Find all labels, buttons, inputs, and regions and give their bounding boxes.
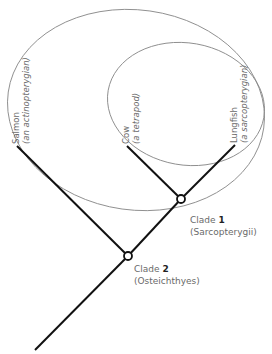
svg-text:(Osteichthyes): (Osteichthyes) [134, 276, 200, 286]
cladogram: Salmon (an actinopterygian) Cow (a tetra… [0, 0, 272, 354]
svg-text:(an actinopterygian): (an actinopterygian) [21, 57, 31, 144]
svg-text:(a sarcopterygian): (a sarcopterygian) [239, 65, 249, 143]
clade-2-node [124, 252, 132, 260]
cow-branch [127, 146, 181, 199]
svg-text:(a tetrapod): (a tetrapod) [131, 93, 141, 144]
salmon-label: Salmon (an actinopterygian) [11, 57, 31, 144]
salmon-branch [17, 146, 128, 256]
svg-text:Clade 1: Clade 1 [190, 215, 225, 225]
clade-1-node [177, 195, 185, 203]
svg-text:Lungfish: Lungfish [229, 107, 239, 143]
lungfish-label: Lungfish (a sarcopterygian) [229, 65, 249, 143]
cow-label: Cow (a tetrapod) [121, 93, 141, 144]
svg-text:Cow: Cow [121, 126, 131, 144]
clade1-stem [128, 199, 181, 256]
svg-text:Clade 2: Clade 2 [134, 264, 169, 274]
lungfish-branch [181, 145, 235, 199]
svg-text:Salmon: Salmon [11, 112, 21, 144]
clade-2-label: Clade 2 (Osteichthyes) [134, 264, 200, 286]
svg-text:(Sarcopterygii): (Sarcopterygii) [190, 227, 257, 237]
clade-1-label: Clade 1 (Sarcopterygii) [190, 215, 257, 237]
root-branch [35, 256, 128, 350]
